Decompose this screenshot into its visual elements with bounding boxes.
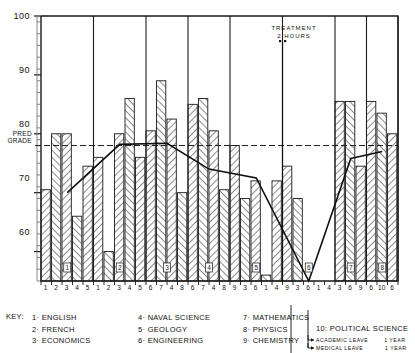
bar — [73, 216, 82, 281]
term-marker-label: 3 — [165, 264, 169, 271]
bar — [209, 131, 218, 281]
y-tick-90: 90 — [4, 65, 30, 75]
legend-item-mathematics: 7· MATHEMATICS — [243, 312, 309, 324]
bar — [62, 134, 71, 281]
legend-leave-medical-name: MEDICAL LEAVE — [316, 345, 363, 351]
bar — [136, 157, 145, 281]
bar — [283, 166, 292, 281]
legend-leave-block: ACADEMIC LEAVE 1 YEAR MEDICAL LEAVE 1 YE… — [316, 336, 406, 352]
legend-leave-medical: MEDICAL LEAVE 1 YEAR — [316, 344, 406, 352]
legend-item-physics: 8· PHYSICS — [243, 324, 309, 336]
bar — [146, 131, 155, 281]
legend-item-political-science: 10: POLITICAL SCIENCE — [316, 324, 408, 333]
legend-column-2: 4· NAVAL SCIENCE 5· GEOLOGY 6· ENGINEERI… — [138, 312, 210, 347]
treatment-dot — [279, 40, 281, 42]
bar — [178, 193, 187, 281]
legend-column-1: 1· ENGLISH 2· FRENCH 3· ECONOMICS — [32, 312, 91, 347]
legend-column-3: 7· MATHEMATICS 8· PHYSICS 9· CHEMISTRY — [243, 312, 309, 347]
legend-item-geology: 5· GEOLOGY — [138, 324, 210, 336]
legend-item-engineering: 6· ENGINEERING — [138, 335, 210, 347]
pred-grade-label: PRED GRADE — [0, 130, 32, 144]
y-tick-100: 100 — [4, 11, 30, 21]
term-marker-label: 2 — [118, 264, 122, 271]
treatment-dot — [284, 40, 286, 42]
term-marker-label: 5 — [254, 264, 258, 271]
y-tick-60: 60 — [4, 227, 30, 237]
term-marker-label: 6 — [307, 264, 311, 271]
legend-key-label: KEY: — [6, 312, 24, 321]
bar — [272, 181, 281, 281]
term-marker-label: 4 — [207, 264, 211, 271]
bar — [262, 275, 271, 281]
y-tick-80: 80 — [4, 119, 30, 129]
bar — [188, 104, 197, 281]
bar — [41, 190, 50, 281]
bar — [104, 252, 113, 281]
legend-leave-medical-duration: 1 YEAR — [385, 345, 406, 351]
bar — [83, 166, 92, 281]
leave-arrow-head — [311, 346, 314, 350]
bar — [199, 98, 208, 281]
legend-item-naval-science: 4· NAVAL SCIENCE — [138, 312, 210, 324]
grade-history-chart: 12345678 100 90 80 70 60 PRED GRADE TREA… — [0, 0, 415, 353]
bar — [241, 199, 250, 281]
bar — [367, 101, 376, 281]
bar — [346, 101, 355, 281]
treatment-line2: 2 HOURS — [258, 32, 330, 40]
bar — [356, 166, 365, 281]
x-axis-course-label: 6 — [386, 284, 398, 291]
bar — [220, 190, 229, 281]
pred-grade-label-line1: PRED — [0, 130, 32, 137]
bar — [157, 81, 166, 281]
bar — [388, 134, 397, 281]
legend-item-english: 1· ENGLISH — [32, 312, 91, 324]
bar — [115, 134, 124, 281]
bar — [52, 134, 61, 281]
term-marker-label: 8 — [380, 264, 384, 271]
chart-canvas: 12345678 — [0, 0, 415, 353]
legend-leave-academic-name: ACADEMIC LEAVE — [316, 337, 368, 343]
term-marker-label: 1 — [65, 264, 69, 271]
term-marker-label: 7 — [349, 264, 353, 271]
treatment-line1: TREATMENT — [258, 24, 330, 32]
bar — [230, 146, 239, 281]
legend-leave-academic: ACADEMIC LEAVE 1 YEAR — [316, 336, 406, 344]
legend-item-economics: 3· ECONOMICS — [32, 335, 91, 347]
bar — [293, 199, 302, 281]
leave-arrow-head — [311, 338, 314, 342]
treatment-annotation: TREATMENT 2 HOURS — [258, 24, 330, 40]
legend-item-chemistry: 9· CHEMISTRY — [243, 335, 309, 347]
legend-leave-academic-duration: 1 YEAR — [384, 337, 405, 343]
pred-grade-label-line2: GRADE — [0, 137, 32, 144]
bar — [377, 113, 386, 281]
y-tick-70: 70 — [4, 173, 30, 183]
bar — [94, 157, 103, 281]
legend-item-french: 2· FRENCH — [32, 324, 91, 336]
bar — [125, 98, 134, 281]
